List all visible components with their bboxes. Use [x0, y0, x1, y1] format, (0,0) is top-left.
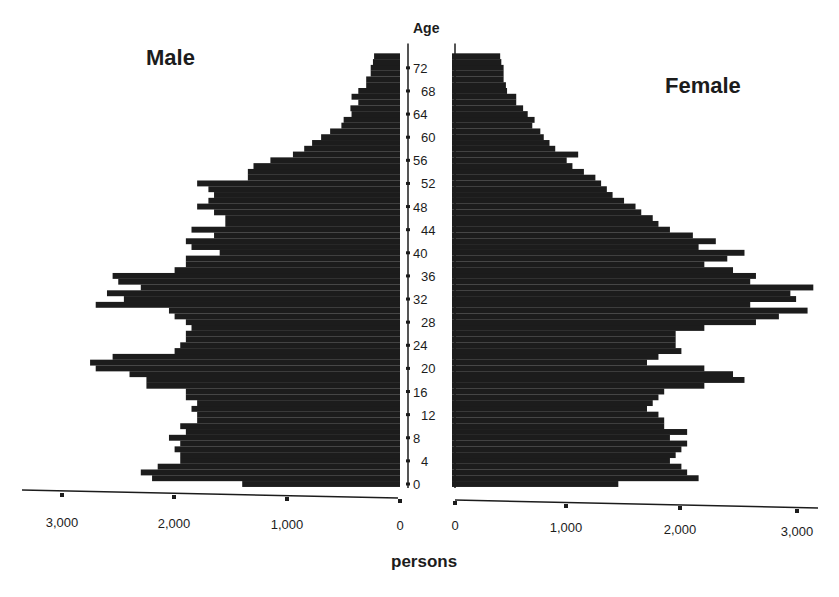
female-bar	[452, 360, 647, 366]
male-x-tick-label: 0	[396, 518, 403, 533]
male-bar	[141, 285, 400, 291]
age-tick-label: 40	[413, 246, 427, 261]
female-bar	[452, 308, 808, 314]
male-bar	[366, 76, 400, 82]
female-bar	[452, 215, 653, 221]
female-bar	[452, 267, 733, 273]
female-x-tick-label: 1,000	[550, 520, 583, 535]
female-bar	[452, 128, 540, 134]
male-bar	[186, 256, 400, 262]
age-axis: 04812162024283236404448525660646872	[406, 43, 456, 492]
female-bar	[452, 76, 504, 82]
female-bar	[452, 169, 584, 175]
male-bar	[214, 209, 400, 215]
male-bar	[186, 319, 400, 325]
female-bar	[452, 94, 516, 100]
age-tick-label: 28	[421, 315, 435, 330]
male-bar	[312, 140, 400, 146]
female-bar	[452, 175, 595, 181]
female-bar	[452, 88, 507, 94]
male-bar	[192, 227, 400, 233]
male-x-tick-label: 2,000	[158, 516, 191, 531]
age-tick-label: 64	[413, 107, 427, 122]
female-bar	[452, 123, 532, 129]
male-bar	[373, 59, 400, 65]
male-bar	[352, 94, 400, 100]
female-bar	[452, 198, 624, 204]
male-bar	[180, 452, 400, 458]
male-bar	[186, 331, 400, 337]
female-bar	[452, 250, 744, 256]
female-bar	[452, 354, 658, 360]
age-tick-label: 0	[413, 477, 420, 492]
male-bar	[242, 481, 400, 487]
female-bar	[452, 157, 567, 163]
male-bar	[192, 325, 400, 331]
male-bar	[90, 360, 400, 366]
male-bar	[214, 233, 400, 239]
female-bar	[452, 290, 790, 296]
male-bar	[186, 261, 400, 267]
male-bar	[270, 157, 400, 163]
male-bar	[146, 383, 400, 389]
male-bar	[208, 198, 400, 204]
male-bar	[175, 446, 400, 452]
female-bar	[452, 140, 549, 146]
male-bar	[344, 117, 400, 123]
female-bar	[452, 180, 601, 186]
male-bar	[192, 244, 400, 250]
male-bar	[141, 469, 400, 475]
male-bar	[225, 221, 400, 227]
female-bar	[452, 331, 676, 337]
female-bar	[452, 111, 528, 117]
age-tick-label: 4	[421, 454, 428, 469]
female-bar	[452, 146, 555, 152]
male-bar	[225, 215, 400, 221]
female-bar	[452, 342, 676, 348]
female-bar	[452, 464, 681, 470]
female-bar	[452, 59, 501, 65]
male-bar	[113, 354, 400, 360]
male-bar	[321, 134, 400, 140]
female-bar	[452, 256, 727, 262]
age-tick-label: 24	[413, 338, 427, 353]
male-bars	[90, 53, 400, 487]
male-bar	[374, 53, 400, 59]
age-tick-label: 68	[421, 84, 435, 99]
female-x-tick-label: 2,000	[664, 522, 697, 537]
male-bar	[208, 186, 400, 192]
male-bar	[220, 250, 400, 256]
male-bar	[248, 169, 400, 175]
female-bar	[452, 204, 636, 210]
male-bar	[371, 65, 400, 71]
female-bars	[452, 53, 813, 487]
male-bar	[180, 342, 400, 348]
female-bar	[452, 221, 658, 227]
male-bar	[371, 71, 400, 77]
male-bar	[366, 82, 400, 88]
female-bar	[452, 365, 704, 371]
female-bar	[452, 337, 676, 343]
female-bar	[452, 325, 704, 331]
male-bar	[197, 204, 400, 210]
male-bar	[341, 123, 400, 129]
female-bar	[452, 117, 535, 123]
male-bar	[169, 308, 400, 314]
female-bar	[452, 261, 704, 267]
female-bar	[452, 285, 813, 291]
female-bar	[452, 192, 613, 198]
female-bar	[452, 302, 750, 308]
female-bar	[452, 186, 607, 192]
age-tick-label: 16	[413, 385, 427, 400]
male-bar	[180, 423, 400, 429]
male-bar	[186, 429, 400, 435]
female-bar	[452, 389, 664, 395]
female-bar	[452, 348, 681, 354]
male-bar	[175, 267, 400, 273]
male-bar	[113, 273, 400, 279]
male-bar	[358, 100, 400, 106]
female-bar	[452, 313, 779, 319]
male-bar	[304, 146, 400, 152]
male-bar	[175, 348, 400, 354]
male-bar	[130, 371, 400, 377]
